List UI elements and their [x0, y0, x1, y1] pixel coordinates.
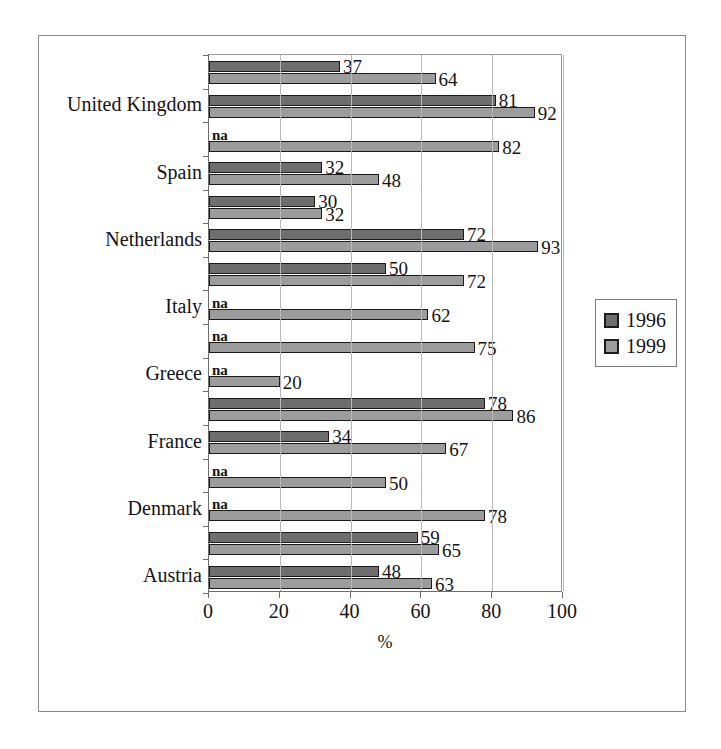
y-axis-tick [203, 358, 209, 359]
bar-value-label-1999: 48 [382, 171, 401, 190]
bar-value-label-1999: 75 [478, 339, 497, 358]
bar-1999 [209, 578, 432, 589]
y-axis-tick [203, 89, 209, 90]
gridline-20 [280, 55, 281, 591]
bar-1999 [209, 73, 436, 84]
x-axis-tick-40 [350, 592, 351, 598]
bar-value-label-1999: 63 [435, 575, 454, 594]
x-axis-tick-100 [562, 592, 563, 598]
bar-1999 [209, 309, 428, 320]
x-axis-title: % [208, 632, 562, 653]
legend-swatch-1996 [604, 313, 619, 328]
bar-group: 3467 [209, 425, 561, 459]
x-axis-label-0: 0 [203, 601, 213, 621]
y-axis-tick [203, 290, 209, 291]
bar-group: na78 [209, 492, 561, 526]
category-label: United Kingdom [67, 94, 202, 114]
y-axis-tick [203, 526, 209, 527]
y-axis-tick [203, 459, 209, 460]
category-label: Italy [165, 296, 202, 316]
x-axis-label-20: 20 [269, 601, 289, 621]
x-axis-label-60: 60 [410, 601, 430, 621]
bar-value-label-1999: 86 [516, 407, 535, 426]
bar-group: 5965 [209, 526, 561, 560]
category-label: Spain [156, 162, 202, 182]
bar-1999 [209, 477, 386, 488]
y-axis-tick [203, 559, 209, 560]
legend-label-1999: 1999 [626, 336, 666, 356]
bar-group: 4863 [209, 559, 561, 593]
category-label: France [148, 431, 202, 451]
bar-1999 [209, 208, 322, 219]
bar-group: na50 [209, 459, 561, 493]
x-axis-tick-0 [208, 592, 209, 598]
bar-value-label-1999: 64 [439, 70, 458, 89]
y-axis-tick [203, 257, 209, 258]
bar-value-label-1999: 20 [283, 373, 302, 392]
category-label: Denmark [128, 498, 202, 518]
x-axis-tick-20 [279, 592, 280, 598]
bar-value-label-1999: 93 [541, 238, 560, 257]
y-axis-tick [203, 156, 209, 157]
bar-1996 [209, 532, 418, 543]
category-label: Netherlands [105, 229, 202, 249]
bar-1999 [209, 510, 485, 521]
bar-value-label-1999: 78 [488, 507, 507, 526]
bar-value-label-1999: 62 [431, 306, 450, 325]
bar-value-label-1999: 92 [538, 104, 557, 123]
x-axis-label-80: 80 [481, 601, 501, 621]
bar-1999 [209, 141, 499, 152]
bar-1996 [209, 566, 379, 577]
bar-1999 [209, 342, 475, 353]
y-axis-tick [203, 122, 209, 123]
plot-area: 37648192na823248303272935072na62na75na20… [208, 54, 562, 592]
bar-group: 8192 [209, 89, 561, 123]
bar-1996 [209, 61, 340, 72]
x-axis-label-100: 100 [547, 601, 577, 621]
bar-1999 [209, 376, 280, 387]
bar-group: na75 [209, 324, 561, 358]
bar-1999 [209, 174, 379, 185]
x-axis-tick-80 [491, 592, 492, 598]
bar-1996 [209, 431, 329, 442]
bar-value-label-1999: 67 [449, 440, 468, 459]
y-axis-tick [203, 324, 209, 325]
gridline-60 [421, 55, 422, 591]
bar-1999 [209, 443, 446, 454]
bar-group: na20 [209, 358, 561, 392]
y-axis-tick [203, 391, 209, 392]
bar-1999 [209, 241, 538, 252]
category-axis-labels: United KingdomSpainNetherlandsItalyGreec… [39, 54, 202, 592]
legend-item-1996: 1996 [604, 307, 666, 333]
bar-group: 5072 [209, 257, 561, 291]
bar-group: 3032 [209, 190, 561, 224]
gridline-100 [563, 55, 564, 591]
bar-group: 7293 [209, 223, 561, 257]
bar-group: 3764 [209, 55, 561, 89]
bar-1996 [209, 162, 322, 173]
bar-1999 [209, 410, 513, 421]
gridline-80 [492, 55, 493, 591]
x-axis: 020406080100 [208, 592, 562, 632]
bar-1999 [209, 107, 535, 118]
legend: 1996 1999 [595, 299, 677, 367]
bar-group: 7886 [209, 391, 561, 425]
bar-value-label-1999: 72 [467, 272, 486, 291]
bar-group: na62 [209, 290, 561, 324]
legend-label-1996: 1996 [626, 310, 666, 330]
bar-value-label-1999: 32 [325, 205, 344, 224]
y-axis-tick [203, 55, 209, 56]
y-axis-tick [203, 190, 209, 191]
bar-1999 [209, 544, 439, 555]
y-axis-tick [203, 425, 209, 426]
y-axis-tick [203, 492, 209, 493]
bar-value-label-1999: 50 [389, 474, 408, 493]
bar-value-label-1999: 65 [442, 541, 461, 560]
bar-1996 [209, 263, 386, 274]
bar-group: 3248 [209, 156, 561, 190]
bar-1996 [209, 229, 464, 240]
bar-rows: 37648192na823248303272935072na62na75na20… [209, 55, 561, 591]
x-axis-label-40: 40 [340, 601, 360, 621]
category-label: Greece [145, 363, 202, 383]
bar-1996 [209, 95, 496, 106]
